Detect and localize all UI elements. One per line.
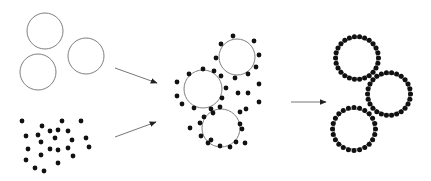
particle-dot: [389, 113, 394, 118]
particle-dot: [403, 77, 408, 82]
particle-dot: [220, 96, 225, 101]
particle-dot: [254, 65, 259, 70]
sphere-circle: [20, 54, 56, 90]
particle-dot: [330, 127, 335, 132]
particle-dot: [370, 77, 375, 82]
particle-dot: [244, 107, 249, 112]
particle-dot: [333, 56, 338, 61]
particle-dot: [66, 129, 71, 134]
particle-dot: [335, 46, 340, 51]
particle-dot: [240, 127, 245, 132]
particle-dot: [20, 119, 25, 124]
particle-dot: [406, 82, 411, 87]
particle-dot: [341, 108, 346, 113]
particle-dot: [40, 124, 45, 129]
process-arrows-group: [115, 68, 326, 137]
particle-dot: [384, 113, 389, 118]
particle-dot: [238, 122, 243, 127]
particle-dot: [352, 148, 357, 153]
particle-dot: [375, 61, 380, 66]
sphere-circle: [68, 38, 104, 74]
particle-dot: [79, 119, 84, 124]
particle-dot: [366, 86, 371, 91]
particle-dot: [24, 158, 29, 163]
particle-dot: [206, 141, 211, 146]
particle-dot: [84, 136, 89, 141]
particle-dot: [219, 42, 224, 47]
particle-dot: [338, 41, 343, 46]
particle-dot: [48, 129, 53, 134]
particle-dot: [231, 34, 236, 39]
particle-dot: [24, 134, 29, 139]
particle-dot: [71, 154, 76, 159]
particle-dot: [374, 65, 379, 70]
particle-dot: [201, 67, 206, 72]
particle-dot: [370, 116, 375, 121]
mixed-stage-group: [175, 34, 262, 150]
particle-dot: [257, 100, 262, 105]
particle-dot: [367, 38, 372, 43]
particle-dot: [407, 86, 412, 91]
particle-dot: [399, 109, 404, 114]
particle-dot: [372, 132, 377, 137]
particle-dot: [214, 56, 219, 61]
particle-dot: [334, 50, 339, 55]
particle-dot: [224, 86, 229, 91]
particle-dot: [407, 97, 412, 102]
particle-dot: [357, 34, 362, 39]
particle-dot: [374, 109, 379, 114]
particle-dot: [70, 138, 75, 143]
particle-dot: [346, 106, 351, 111]
particle-dot: [367, 101, 372, 106]
particle-dot: [218, 105, 223, 110]
small-particles-group: [20, 119, 92, 174]
particle-dot: [180, 102, 185, 107]
particle-dot: [370, 137, 375, 142]
particle-dot: [56, 148, 61, 153]
particle-dot: [352, 105, 357, 110]
particle-dot: [175, 94, 180, 99]
particle-dot: [228, 145, 233, 150]
particle-dot: [42, 169, 47, 174]
particle-dot: [33, 166, 38, 171]
particle-dot: [87, 145, 92, 150]
particle-dot: [373, 127, 378, 132]
particle-dot: [336, 111, 341, 116]
particle-dot: [379, 71, 384, 76]
particle-dot: [56, 128, 61, 133]
particle-dot: [243, 141, 248, 146]
particle-dot: [198, 121, 203, 126]
particle-dot: [371, 70, 376, 75]
particle-dot: [342, 73, 347, 78]
particle-dot: [257, 53, 262, 58]
particle-dot: [367, 142, 372, 147]
particle-dot: [341, 145, 346, 150]
particle-dot: [342, 38, 347, 43]
particle-dot: [371, 41, 376, 46]
particle-dot: [347, 76, 352, 81]
particle-dot: [238, 110, 243, 115]
particle-dot: [375, 50, 380, 55]
particle-dot: [199, 134, 204, 139]
particle-dot: [56, 161, 61, 166]
particle-dot: [202, 115, 207, 120]
particle-dot: [352, 34, 357, 39]
particle-dot: [212, 69, 217, 74]
particle-dot: [357, 147, 362, 152]
sphere-circle: [219, 39, 255, 75]
particle-dot: [39, 153, 44, 158]
particle-dot: [252, 39, 257, 44]
particle-dot: [352, 77, 357, 82]
particle-dot: [379, 112, 384, 117]
particle-dot: [236, 91, 241, 96]
particle-dot: [39, 140, 44, 145]
particle-dot: [362, 76, 367, 81]
particle-dot: [48, 147, 53, 152]
particle-dot: [338, 70, 343, 75]
particle-dot: [367, 111, 372, 116]
particle-dot: [357, 106, 362, 111]
particle-dot: [389, 70, 394, 75]
particle-dot: [26, 147, 31, 152]
particle-dot: [331, 121, 336, 126]
particle-dot: [408, 92, 413, 97]
